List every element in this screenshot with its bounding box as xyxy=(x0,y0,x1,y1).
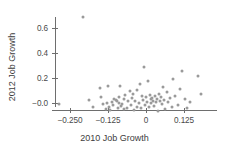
scatter-point xyxy=(81,15,84,18)
scatter-point xyxy=(102,103,105,106)
scatter-point xyxy=(145,96,148,99)
scatter-point xyxy=(159,96,162,99)
scatter-point xyxy=(174,94,177,97)
y-axis-title: 2012 Job Growth xyxy=(7,19,17,115)
scatter-point xyxy=(145,100,148,103)
scatter-point xyxy=(156,109,159,112)
scatter-point xyxy=(57,102,60,105)
scatter-point xyxy=(183,98,186,101)
scatter-point xyxy=(164,108,167,111)
scatter-plot-figure: −0.250−0.12500.1250.60.40.2−0.0 2010 Job… xyxy=(0,0,229,157)
scatter-point xyxy=(170,105,173,108)
scatter-point xyxy=(199,93,202,96)
x-axis-title: 2010 Job Growth xyxy=(0,133,229,143)
scatter-point xyxy=(116,107,119,110)
scatter-point xyxy=(125,106,128,109)
scatter-point xyxy=(168,96,171,99)
scatter-point xyxy=(138,83,141,86)
scatter-point xyxy=(136,88,139,91)
scatter-point xyxy=(124,94,127,97)
scatter-point xyxy=(88,99,91,102)
scatter-point xyxy=(91,106,94,109)
scatter-point xyxy=(117,95,120,98)
scatter-point xyxy=(163,99,166,102)
scatter-point xyxy=(189,100,192,103)
scatter-point xyxy=(146,79,149,82)
scatter-point xyxy=(140,107,143,110)
scatter-point xyxy=(155,101,158,104)
scatter-point xyxy=(162,86,165,89)
scatter-point xyxy=(165,91,168,94)
scatter-point xyxy=(131,93,134,96)
scatter-point xyxy=(141,98,144,101)
scatter-point xyxy=(112,104,115,107)
scatter-point xyxy=(98,87,101,90)
scatter-point xyxy=(186,107,189,110)
scatter-point xyxy=(129,103,132,106)
scatter-point xyxy=(181,70,184,73)
scatter-point xyxy=(107,84,110,87)
scatter-point xyxy=(99,96,102,99)
scatter-point xyxy=(141,94,144,97)
scatter-point xyxy=(121,102,124,105)
scatter-point xyxy=(179,87,182,90)
scatter-point xyxy=(109,108,112,111)
scatter-point xyxy=(104,107,107,110)
scatter-point xyxy=(147,106,150,109)
scatter-point xyxy=(127,100,130,103)
scatter-point xyxy=(135,105,138,108)
scatter-point xyxy=(131,96,134,99)
scatter-point xyxy=(128,90,131,93)
scatter-point xyxy=(160,103,163,106)
scatter-point xyxy=(133,108,136,111)
scatter-point xyxy=(166,101,169,104)
scatter-point xyxy=(122,98,125,101)
scatter-point xyxy=(144,104,147,107)
scatter-point xyxy=(137,101,140,104)
scatter-point xyxy=(119,85,122,88)
scatter-point xyxy=(176,103,179,106)
scatter-point xyxy=(172,77,175,80)
scatter-point xyxy=(153,104,156,107)
scatter-point xyxy=(143,66,146,69)
scatter-point xyxy=(197,74,200,77)
